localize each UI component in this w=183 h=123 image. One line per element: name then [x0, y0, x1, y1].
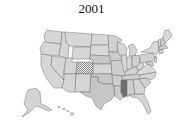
state-indiana	[127, 57, 132, 70]
state-montana	[65, 32, 92, 47]
state-north-dakota	[91, 34, 109, 45]
state-colorado	[76, 62, 93, 74]
state-new-mexico	[75, 74, 91, 92]
us-map	[0, 0, 183, 123]
state-wyoming	[72, 47, 91, 59]
state-florida	[129, 94, 151, 114]
state-washington	[44, 30, 62, 44]
state-kansas	[93, 64, 112, 74]
state-new-york	[141, 41, 159, 55]
state-utah	[64, 58, 77, 74]
state-south-dakota	[90, 45, 109, 56]
state-hawaii	[58, 106, 74, 116]
state-mississippi	[121, 80, 127, 97]
states-group	[22, 30, 172, 117]
state-arizona	[62, 74, 76, 92]
state-pennsylvania	[140, 53, 155, 63]
state-nebraska	[90, 55, 111, 64]
state-oregon	[40, 42, 61, 56]
state-alaska	[22, 88, 52, 117]
state-michigan	[128, 44, 137, 56]
state-maine	[163, 30, 172, 44]
state-connecticut	[159, 49, 163, 54]
